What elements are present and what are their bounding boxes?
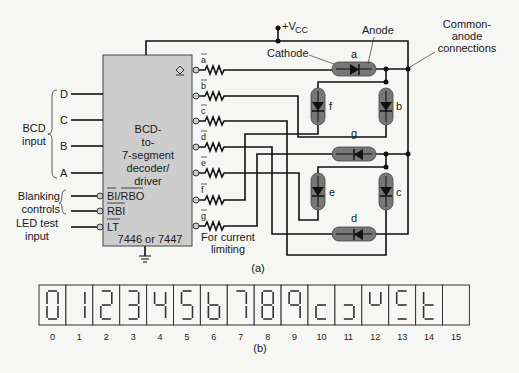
digit-code-label: 4 bbox=[158, 332, 163, 342]
svg-text:c: c bbox=[201, 106, 206, 116]
title-line-2: to- bbox=[142, 136, 155, 148]
digit-cell: 10 bbox=[308, 285, 335, 342]
digit-code-label: 12 bbox=[370, 332, 380, 342]
digit-code-label: 3 bbox=[131, 332, 136, 342]
output-c: c bbox=[193, 105, 230, 125]
input-d-label: D bbox=[60, 88, 68, 100]
led-segment-b: b bbox=[379, 88, 402, 125]
digit-code-label: 0 bbox=[50, 332, 55, 342]
digit-cell: 9 bbox=[281, 285, 308, 342]
led-segment-f: f bbox=[311, 88, 333, 125]
digit-display-row: 0123456789101112131415 bbox=[39, 285, 469, 342]
led-segment-e: e bbox=[311, 173, 335, 210]
digit-cell: 14 bbox=[416, 285, 443, 342]
input-a-label: A bbox=[60, 167, 68, 179]
bcd-decoder-diagram: BCD- to- 7-segment decoder/ driver 7446 … bbox=[0, 0, 519, 373]
digit-code-label: 5 bbox=[184, 332, 189, 342]
led-test-label-2: input bbox=[25, 230, 49, 242]
input-b-label: B bbox=[60, 140, 67, 152]
digit-code-label: 11 bbox=[344, 332, 353, 342]
vcc-subscript: CC bbox=[295, 25, 308, 35]
svg-text:c: c bbox=[396, 186, 402, 198]
bi-rbo-pin-label: BI/RBO bbox=[107, 190, 145, 202]
digit-code-label: 2 bbox=[104, 332, 109, 342]
title-line-4: decoder/ bbox=[127, 162, 171, 174]
output-g: g bbox=[193, 210, 230, 230]
rbi-pin-label: RBI bbox=[107, 205, 125, 217]
digit-code-label: 10 bbox=[316, 332, 326, 342]
bcd-input-label-2: input bbox=[22, 135, 46, 147]
svg-text:a: a bbox=[351, 48, 358, 60]
led-test-label-1: LED test bbox=[16, 217, 58, 229]
led-segment-a: a bbox=[332, 48, 376, 76]
input-c-label: C bbox=[60, 114, 68, 126]
digit-code-label: 7 bbox=[238, 332, 243, 342]
digit-code-label: 6 bbox=[211, 332, 216, 342]
cathode-label: Cathode bbox=[267, 47, 309, 59]
output-a: a bbox=[193, 54, 230, 74]
bcd-inputs: D C B A BCD input bbox=[22, 88, 103, 179]
digit-code-label: 15 bbox=[451, 332, 461, 342]
current-limiting-label-1: For current bbox=[201, 231, 255, 243]
led-segment-d: d bbox=[332, 212, 376, 241]
led-segment-c: c bbox=[379, 173, 402, 210]
led-segment-g: g bbox=[332, 127, 376, 161]
output-f: f bbox=[193, 184, 230, 204]
common-anode-label-3: connections bbox=[438, 42, 497, 54]
svg-text:a: a bbox=[201, 55, 206, 65]
title-line-3: 7-segment bbox=[122, 149, 174, 161]
digit-code-label: 13 bbox=[397, 332, 407, 342]
digit-cell: 5 bbox=[174, 285, 201, 342]
digit-cell: 1 bbox=[66, 285, 93, 342]
digit-code-label: 14 bbox=[424, 332, 434, 342]
svg-text:b: b bbox=[396, 100, 402, 112]
part-a-label: (a) bbox=[251, 262, 264, 274]
lt-pin-label: LT bbox=[107, 221, 119, 233]
part-b-label: (b) bbox=[253, 342, 266, 354]
anode-label: Anode bbox=[362, 24, 394, 36]
digit-code-label: 8 bbox=[265, 332, 270, 342]
blanking-brace bbox=[59, 190, 66, 214]
digit-cell: 3 bbox=[120, 285, 147, 342]
digit-cell: 4 bbox=[147, 285, 174, 342]
bcd-input-label-1: BCD bbox=[22, 122, 45, 134]
svg-text:b: b bbox=[201, 81, 206, 91]
blanking-label-1: Blanking bbox=[18, 190, 60, 202]
digit-cell: 7 bbox=[227, 285, 254, 342]
output-d: d bbox=[193, 131, 230, 151]
part-number: 7446 or 7447 bbox=[118, 233, 183, 245]
digit-cell: 6 bbox=[200, 285, 227, 342]
current-limiting-label-2: limiting bbox=[211, 243, 245, 255]
output-e: e bbox=[193, 157, 230, 177]
common-anode-label-1: Common- bbox=[443, 18, 492, 30]
digit-cell: 13 bbox=[389, 285, 416, 342]
digit-code-label: 9 bbox=[292, 332, 297, 342]
svg-text:e: e bbox=[201, 158, 206, 168]
digit-cell: 0 bbox=[39, 285, 66, 342]
digit-cell: 11 bbox=[335, 285, 362, 342]
svg-text:e: e bbox=[329, 186, 335, 198]
ground-icon bbox=[139, 246, 151, 262]
svg-text:d: d bbox=[201, 132, 206, 142]
title-line-5: driver bbox=[134, 175, 162, 187]
svg-text:g: g bbox=[201, 211, 206, 221]
bcd-brace bbox=[48, 90, 57, 178]
common-anode-label-2: anode bbox=[452, 30, 483, 42]
svg-text:f: f bbox=[329, 100, 333, 112]
digit-code-label: 1 bbox=[77, 332, 82, 342]
output-b: b bbox=[193, 80, 230, 100]
digit-cell: 12 bbox=[362, 285, 389, 342]
digit-cell: 2 bbox=[93, 285, 120, 342]
digit-cell: 8 bbox=[254, 285, 281, 342]
blanking-label-2: controls bbox=[21, 203, 60, 215]
svg-text:d: d bbox=[351, 212, 357, 224]
svg-text:g: g bbox=[351, 127, 357, 139]
svg-text:f: f bbox=[201, 185, 204, 195]
digit-cell: 15 bbox=[443, 285, 470, 342]
title-line-1: BCD- bbox=[135, 123, 162, 135]
